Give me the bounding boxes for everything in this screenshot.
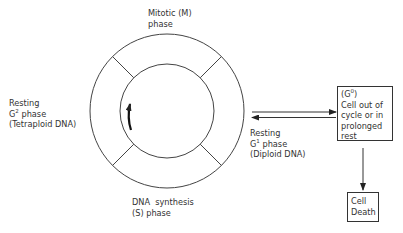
label-line: (S) phase bbox=[132, 208, 194, 219]
cell-death-box: Cell Death bbox=[347, 192, 379, 222]
label-line: Mitotic (M) bbox=[148, 8, 192, 19]
g-letter: (G bbox=[341, 89, 351, 99]
label-line: DNA synthesis bbox=[132, 197, 194, 208]
paren: ) bbox=[354, 89, 357, 99]
divider-ne bbox=[200, 57, 221, 78]
g2-phase-label: Resting G2 phase (Tetraploid DNA) bbox=[9, 98, 76, 130]
label-line: (Tetraploid DNA) bbox=[9, 119, 76, 130]
label-line: cycle or in bbox=[341, 110, 389, 121]
phase-word: phase bbox=[260, 139, 287, 149]
label-line: (Diploid DNA) bbox=[250, 149, 306, 160]
cell-death-text: Cell Death bbox=[351, 196, 375, 217]
label-line: rest bbox=[341, 131, 389, 142]
label-line: G2 phase bbox=[9, 109, 76, 120]
inner-circle bbox=[120, 64, 214, 158]
counterclockwise-arrow-icon bbox=[129, 104, 131, 130]
label-line: prolonged bbox=[341, 121, 389, 132]
phase-word: phase bbox=[19, 109, 46, 119]
label-line: Resting bbox=[9, 98, 76, 109]
label-line: Death bbox=[351, 207, 375, 218]
label-line: phase bbox=[148, 19, 192, 30]
label-line: Cell out of bbox=[341, 100, 389, 111]
g0-box-text: (G0) Cell out of cycle or in prolonged r… bbox=[341, 89, 389, 142]
g0-box: (G0) Cell out of cycle or in prolonged r… bbox=[337, 86, 393, 141]
divider-se bbox=[200, 144, 221, 165]
label-line: Cell bbox=[351, 196, 375, 207]
label-line: (G0) bbox=[341, 89, 389, 100]
g1-phase-label: Resting G1 phase (Diploid DNA) bbox=[250, 128, 306, 160]
label-line: G1 phase bbox=[250, 139, 306, 150]
divider-sw bbox=[113, 144, 134, 165]
divider-nw bbox=[113, 57, 134, 78]
s-phase-label: DNA synthesis (S) phase bbox=[132, 197, 194, 218]
mitotic-phase-label: Mitotic (M) phase bbox=[148, 8, 192, 29]
